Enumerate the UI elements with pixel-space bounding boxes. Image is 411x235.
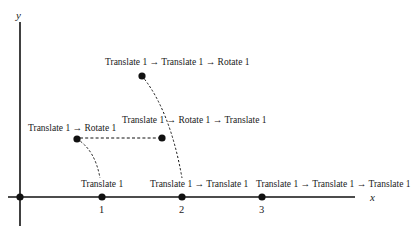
dashed-curve-t1r1-to-t1 bbox=[77, 139, 100, 178]
label-t1r1t1: Translate 1 → Rotate 1 → Translate 1 bbox=[122, 116, 267, 126]
point-t1t1r1 bbox=[138, 72, 145, 79]
label-t1t1t1: Translate 1 → Translate 1 → Translate 1 bbox=[256, 180, 411, 190]
point-t1r1 bbox=[73, 135, 80, 142]
point-t1t1 bbox=[178, 193, 185, 200]
tick-label-2: 2 bbox=[179, 205, 184, 216]
label-t1r1: Translate 1 → Rotate 1 bbox=[28, 124, 116, 134]
label-t1: Translate 1 bbox=[81, 180, 123, 190]
point-t1 bbox=[98, 193, 105, 200]
point-origin bbox=[16, 193, 23, 200]
label-t1t1r1: Translate 1 → Translate 1 → Rotate 1 bbox=[105, 58, 250, 68]
x-axis-label: x bbox=[370, 192, 375, 203]
point-t1r1t1 bbox=[158, 134, 165, 141]
tick-label-1: 1 bbox=[99, 205, 104, 216]
point-t1t1t1 bbox=[258, 193, 265, 200]
y-axis-label: y bbox=[16, 10, 21, 21]
label-t1t1: Translate 1 → Translate 1 bbox=[150, 180, 248, 190]
tick-label-3: 3 bbox=[259, 205, 264, 216]
dashed-curve-t1t1r1-to-t1t1 bbox=[142, 76, 182, 178]
